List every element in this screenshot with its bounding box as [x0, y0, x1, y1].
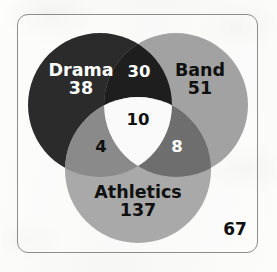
- outside-count-label: 67: [223, 219, 247, 239]
- venn-diagram-page: Drama 38 Band 51 Athletics 137 30 4 8 10…: [0, 0, 277, 272]
- overlap-label-band-athletics: 8: [171, 137, 182, 156]
- overlap-label-all-three: 10: [127, 110, 150, 129]
- set-label-athletics-name: Athletics: [94, 182, 181, 202]
- set-label-band-count: 51: [188, 78, 212, 98]
- set-label-drama-name: Drama: [48, 60, 113, 80]
- set-label-band-name: Band: [175, 60, 225, 80]
- set-label-drama-count: 38: [69, 78, 93, 98]
- venn-diagram-graphic: Drama 38 Band 51 Athletics 137 30 4 8 10…: [17, 14, 258, 253]
- set-label-athletics-count: 137: [120, 200, 157, 220]
- overlap-label-drama-athletics: 4: [95, 137, 106, 156]
- overlap-label-drama-band: 30: [128, 62, 151, 81]
